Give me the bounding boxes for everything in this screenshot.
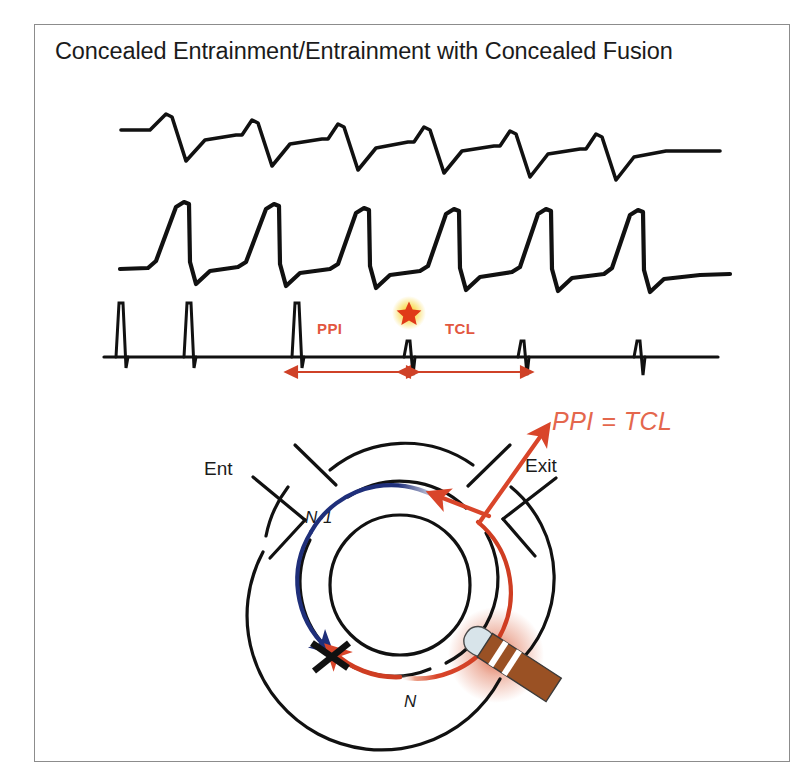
entrance-label: Ent	[204, 458, 233, 480]
ppi-equals-tcl-label: PPI = TCL	[552, 407, 673, 436]
slide-border	[34, 24, 790, 762]
tcl-label: TCL	[445, 320, 475, 337]
page-title: Concealed Entrainment/Entrainment with C…	[55, 36, 755, 66]
slide-canvas: Concealed Entrainment/Entrainment with C…	[0, 0, 809, 774]
ppi-label: PPI	[317, 320, 342, 337]
exit-label: Exit	[525, 455, 557, 477]
wavefront-previous-label: N-1	[305, 508, 332, 528]
wavefront-current-label: N	[404, 692, 416, 712]
